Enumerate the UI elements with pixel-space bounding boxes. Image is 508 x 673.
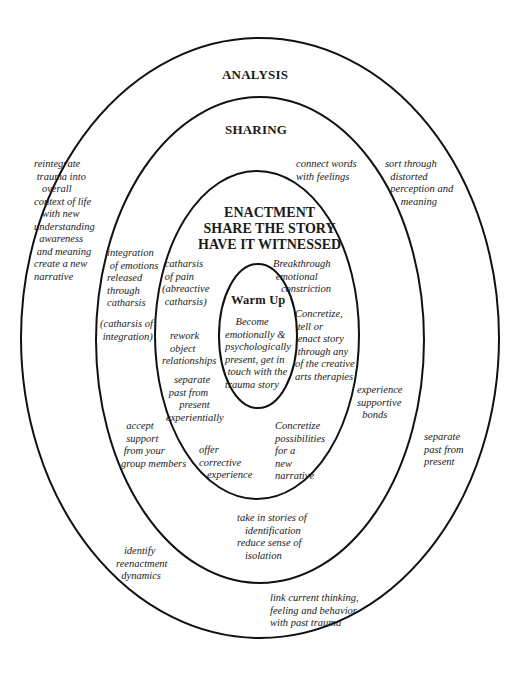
- warm-up-note: Become emotionally & psychologically pre…: [225, 316, 291, 391]
- sharing-note-accept-support: accept support from your group members: [121, 420, 186, 470]
- sharing-note-take-in-stories: take in stories of identification reduce…: [237, 512, 307, 562]
- enactment-title-line1: ENACTMENT: [198, 205, 341, 221]
- sharing-note-experience-bonds: experience supportive bonds: [357, 384, 402, 422]
- analysis-note-identify: identify reenactment dynamics: [116, 545, 168, 583]
- analysis-note-link-current: link current thinking, feeling and behav…: [270, 592, 359, 630]
- warm-up-title: Warm Up: [231, 293, 286, 308]
- analysis-note-sort-through: sort through distorted perception and me…: [385, 158, 453, 208]
- analysis-title: ANALYSIS: [222, 67, 288, 83]
- enactment-note-breakthrough: Breakthrough emotional constriction: [273, 258, 331, 296]
- enactment-note-concretize-possibilities: Concretize possibilities for a new narra…: [275, 420, 325, 483]
- sharing-note-connect-words: connect words with feelings: [296, 158, 357, 183]
- enactment-title-line3: HAVE IT WITNESSED: [198, 237, 341, 253]
- enactment-title-line2: SHARE THE STORY: [198, 221, 341, 237]
- enactment-note-rework: rework object relationships: [162, 330, 216, 368]
- enactment-note-separate-experientially: separate past from present experientiall…: [166, 374, 224, 424]
- analysis-note-separate-past: separate past from present: [424, 431, 464, 469]
- enactment-note-concretize-tell: Concretize, tell or enact story through …: [295, 308, 355, 383]
- enactment-title: ENACTMENT SHARE THE STORY HAVE IT WITNES…: [198, 205, 341, 253]
- enactment-note-offer-corrective: offer corrective experience: [199, 444, 252, 482]
- analysis-note-reintegrate: reintegrate trauma into overall context …: [34, 158, 95, 283]
- enactment-note-catharsis-pain: catharsis of pain (abreactive catharsis): [162, 258, 209, 308]
- sharing-note-catharsis-integration: (catharsis of integration): [100, 318, 153, 343]
- sharing-note-integration: integration of emotions released through…: [107, 247, 158, 310]
- sharing-title: SHARING: [225, 122, 287, 138]
